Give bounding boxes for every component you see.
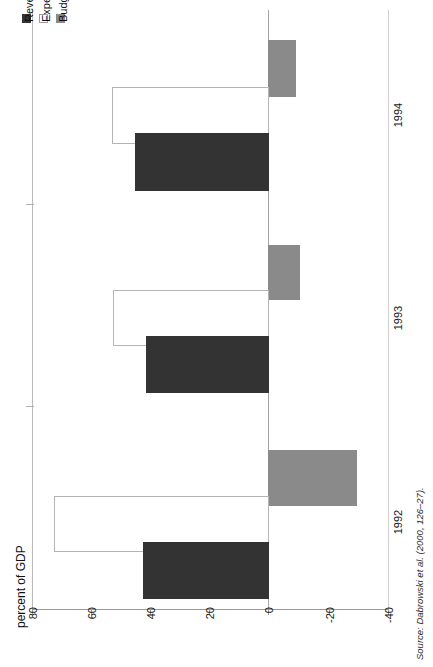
axis-tick-label: 20 — [204, 607, 216, 651]
chart-figure: 80 60 40 20 0 -20 -40 1994 1993 1992 — [0, 0, 433, 667]
category-label-1992: 1992 — [392, 492, 404, 552]
group-separator — [26, 204, 34, 205]
group-separator — [26, 406, 34, 407]
bar-1992-revenues — [143, 542, 269, 599]
bar-1993-budget-deficit — [268, 245, 300, 300]
source-note: Source: Dabrowski et al. (2000, 126–27). — [414, 487, 425, 660]
panel-right-border — [388, 10, 389, 609]
legend: Revenues Expenditures Budget deficit — [22, 14, 88, 204]
bar-1992-budget-deficit — [268, 450, 357, 506]
axis-tick-label: 80 — [27, 607, 39, 651]
bar-1994-budget-deficit — [268, 40, 296, 97]
axis-tick-label: -40 — [383, 607, 395, 651]
axis-title: percent of GDP — [14, 545, 28, 628]
legend-label-budget-deficit: Budget deficit — [57, 0, 69, 22]
category-label-1993: 1993 — [392, 288, 404, 348]
legend-label-expenditures: Expenditures — [40, 0, 52, 22]
bar-1993-revenues — [146, 336, 269, 393]
category-label-1994: 1994 — [392, 85, 404, 145]
axis-tick-label: 40 — [145, 607, 157, 651]
axis-tick-label: 0 — [263, 607, 275, 651]
axis-tick-label: -20 — [324, 607, 336, 651]
bar-1994-revenues — [135, 133, 269, 191]
legend-label-revenues: Revenues — [23, 0, 35, 22]
axis-tick-label: 60 — [86, 607, 98, 651]
